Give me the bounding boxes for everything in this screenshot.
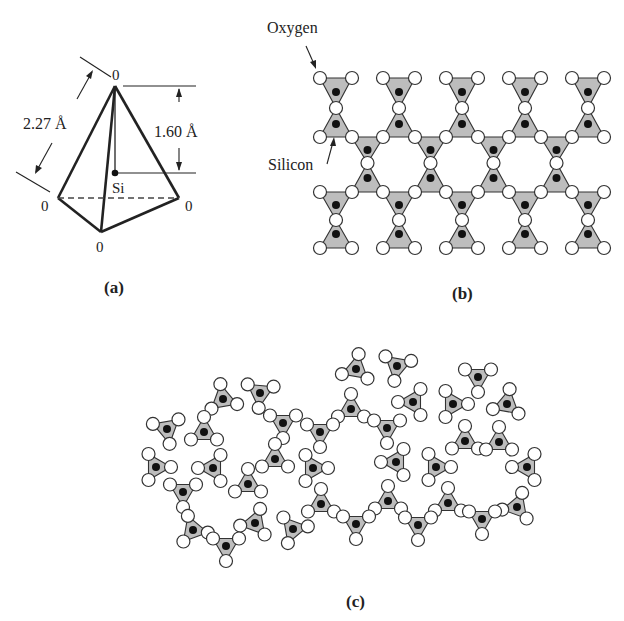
silicon-atom (461, 437, 469, 445)
oxygen-atom (264, 409, 277, 422)
edge-left-bottom (58, 198, 101, 232)
oxygen-atom (399, 511, 412, 524)
silicon-atom (364, 174, 372, 182)
silicon-atom (352, 520, 360, 528)
edge-length-label: 2.27 Å (23, 115, 67, 132)
oxygen-atom (381, 437, 394, 450)
silicon-atom (271, 455, 279, 463)
oxygen-atom (299, 475, 312, 488)
silicon-atom (474, 373, 482, 381)
oxygen-atom (346, 186, 359, 199)
oxygen-atom (211, 433, 224, 446)
edge-dim-top-tick (80, 57, 111, 77)
silicon-atom (523, 463, 531, 471)
silicon-atom (490, 146, 498, 154)
silicon-atom (427, 146, 435, 154)
silicon-atom (553, 146, 561, 154)
oxygen-atom (424, 157, 437, 170)
oxygen-atom (146, 417, 159, 430)
oxygen-atom (181, 509, 194, 522)
oxygen-atom (377, 131, 390, 144)
atom-label-top: 0 (112, 67, 120, 83)
silicon-atom (392, 458, 400, 466)
oxygen-atom (535, 72, 548, 85)
silicon-atom (490, 174, 498, 182)
silicon-atom (449, 400, 457, 408)
silicon-atom (347, 405, 355, 413)
oxygen-atom (409, 131, 422, 144)
silicon-atom (352, 365, 360, 373)
oxygen-atom (425, 511, 438, 524)
oxygen-atom (330, 102, 343, 115)
oxygen-atom (254, 502, 267, 515)
oxygen-atom (394, 414, 407, 427)
silicon-atom (458, 88, 466, 96)
oxygen-atom (282, 460, 295, 473)
silicon-atom (432, 463, 440, 471)
oxygen-atom (177, 535, 190, 548)
silicon-atom (513, 503, 521, 511)
oxygen-atom (486, 403, 499, 416)
oxygen-atom (214, 378, 227, 391)
oxygen-atom (459, 420, 472, 433)
oxygen-atom (503, 186, 516, 199)
oxygen-atom (463, 505, 476, 518)
oxygen-atom (185, 433, 198, 446)
oxygen-atom (472, 72, 485, 85)
silicon-atom (332, 120, 340, 128)
silicon-atom (383, 424, 391, 432)
silicon-atom (364, 146, 372, 154)
silicon-atom (395, 230, 403, 238)
silicon-atom (316, 428, 324, 436)
panel-a-tetrahedron: 0 0 0 0 Si 2.27 Å 1.60 Å (16, 57, 198, 255)
oxygen-atom (487, 157, 500, 170)
oxygen-atom (277, 511, 290, 524)
panel-label-a: (a) (104, 278, 124, 297)
oxygen-atom (375, 456, 388, 469)
silicon-atom (521, 88, 529, 96)
oxygen-atom (503, 242, 516, 255)
oxygen-atom (299, 449, 312, 462)
oxygen-atom (314, 441, 327, 454)
silicon-atom (427, 174, 435, 182)
oxygen-atom (440, 72, 453, 85)
oxygen-atom (566, 242, 579, 255)
oxygen-atom (472, 242, 485, 255)
oxygen-atom (528, 474, 541, 487)
oxygen-atom (503, 72, 516, 85)
si-label: Si (112, 180, 125, 196)
oxygen-atom (440, 242, 453, 255)
oxygen-atom (368, 414, 381, 427)
oxygen-atom (598, 242, 611, 255)
oxygen-atom (598, 186, 611, 199)
oxygen-atom (164, 478, 177, 491)
oxygen-atom (301, 520, 314, 533)
oxygen-atom (528, 448, 541, 461)
oxygen-atom (314, 242, 327, 255)
oxygen-atom (476, 528, 489, 541)
silicon-atom (521, 230, 529, 238)
oxygen-atom (163, 437, 176, 450)
oxygen-atom (480, 443, 493, 456)
silicon-atom (584, 230, 592, 238)
oxygen-atom (598, 72, 611, 85)
oxygen-atom (446, 442, 459, 455)
oxygen-atom (422, 474, 435, 487)
oxygen-atom (172, 413, 185, 426)
oxygen-atom (290, 409, 303, 422)
panel-c-glass-network (142, 348, 541, 568)
oxygen-atom (165, 461, 178, 474)
oxygen-atom (327, 418, 340, 431)
oxygen-atom (456, 214, 469, 227)
oxygen-atom (234, 519, 247, 532)
arrowhead-up (176, 88, 182, 97)
silicon-atom (458, 201, 466, 209)
edge-dim-bottom-tick (16, 172, 50, 192)
silicon-atom (209, 464, 217, 472)
oxygen-atom (520, 512, 533, 525)
oxygen-atom (388, 374, 401, 387)
oxygen-atom (242, 463, 255, 476)
oxygen-atom (314, 72, 327, 85)
arrowhead-edge-upper (86, 70, 93, 79)
oxygen-atom (214, 475, 227, 488)
